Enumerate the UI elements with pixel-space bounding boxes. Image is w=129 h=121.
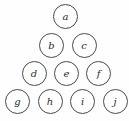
node-label-c: c xyxy=(81,40,87,50)
node-circle-d: d xyxy=(22,61,47,86)
node-label-h: h xyxy=(47,96,53,106)
triangular-node-diagram: abcdefghij xyxy=(0,0,129,121)
node-label-d: d xyxy=(31,68,37,78)
node-circle-h: h xyxy=(38,89,63,114)
node-circle-b: b xyxy=(39,33,64,58)
node-circle-g: g xyxy=(5,89,30,114)
node-label-b: b xyxy=(48,40,54,50)
node-circle-j: j xyxy=(103,89,128,114)
node-circle-e: e xyxy=(54,61,79,86)
node-label-j: j xyxy=(113,96,116,106)
node-circle-i: i xyxy=(70,89,95,114)
node-label-g: g xyxy=(14,96,20,106)
node-label-e: e xyxy=(64,68,70,78)
node-circle-a: a xyxy=(53,4,78,29)
node-label-i: i xyxy=(81,96,84,106)
node-circle-f: f xyxy=(86,61,111,86)
node-label-a: a xyxy=(63,11,69,21)
node-circle-c: c xyxy=(72,33,97,58)
node-label-f: f xyxy=(97,68,101,78)
